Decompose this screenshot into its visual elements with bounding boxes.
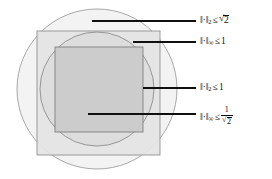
fraction-denominator: 2 xyxy=(221,116,233,126)
bound-value: 1 xyxy=(219,82,224,92)
label-l2-1: ‖·‖2≤1 xyxy=(200,82,224,93)
sqrt-symbol: 2 xyxy=(219,14,229,25)
sqrt-radicand: 2 xyxy=(227,117,232,126)
label-linf-inv-sqrt2: ‖·‖∞≤ 1 2 xyxy=(200,106,233,126)
fraction: 1 2 xyxy=(221,106,233,126)
relation-symbol: ≤ xyxy=(212,82,219,92)
figure-canvas xyxy=(0,0,272,179)
norm-ball-figure: ‖·‖2≤2 ‖·‖∞≤1 ‖·‖2≤1 ‖·‖∞≤ 1 2 xyxy=(0,0,272,179)
relation-symbol: ≤ xyxy=(212,15,219,25)
relation-symbol: ≤ xyxy=(214,112,221,122)
norm-subscript: ∞ xyxy=(208,114,213,123)
label-l2-sqrt2: ‖·‖2≤2 xyxy=(200,14,229,25)
relation-symbol: ≤ xyxy=(214,36,221,46)
bound-value: 1 xyxy=(221,36,226,46)
inner-square-linf-inv-sqrt2 xyxy=(55,47,143,132)
norm-subscript: ∞ xyxy=(208,38,213,47)
label-linf-1: ‖·‖∞≤1 xyxy=(200,36,226,47)
sqrt-radicand: 2 xyxy=(223,15,229,26)
fraction-numerator: 1 xyxy=(221,106,233,114)
sqrt-symbol: 2 xyxy=(222,116,232,126)
